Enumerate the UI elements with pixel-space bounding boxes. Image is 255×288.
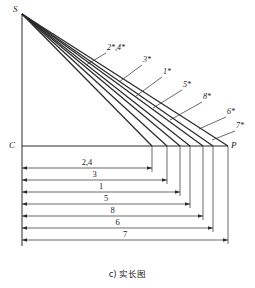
ray-label-5: 6* bbox=[227, 107, 235, 116]
dimension-arrow-left-6 bbox=[22, 238, 27, 242]
radial-ray-2 bbox=[22, 14, 167, 146]
ray-leader-6 bbox=[212, 131, 235, 140]
dimension-arrow-right-4 bbox=[198, 214, 203, 218]
dimension-label-5: 6 bbox=[115, 217, 119, 227]
dimension-label-3: 5 bbox=[104, 193, 108, 203]
radial-ray-7 bbox=[22, 14, 228, 146]
true-length-diagram: S C P 2*,4*3*1*5*8*6*7* 2,4315867 c) 实长图 bbox=[0, 0, 255, 288]
ray-label-4: 8* bbox=[203, 92, 211, 101]
dimension-arrow-right-3 bbox=[185, 202, 190, 206]
dimension-arrow-left-1 bbox=[22, 178, 27, 182]
dimension-arrow-right-5 bbox=[208, 226, 213, 230]
radial-ray-1 bbox=[22, 14, 152, 146]
radial-ray-5 bbox=[22, 14, 203, 146]
dimension-arrow-right-0 bbox=[147, 166, 152, 170]
ray-leader-3 bbox=[153, 90, 182, 108]
point-label-P: P bbox=[230, 140, 237, 150]
radial-ray-group bbox=[22, 14, 228, 146]
dimension-arrow-right-6 bbox=[223, 238, 228, 242]
dimension-label-0: 2,4 bbox=[82, 157, 93, 167]
dimension-arrow-right-2 bbox=[175, 190, 180, 194]
dimension-label-2: 1 bbox=[99, 181, 103, 191]
dimension-line-group: 2,4315867 bbox=[22, 157, 228, 242]
dimension-arrow-left-4 bbox=[22, 214, 27, 218]
ray-label-6: 7* bbox=[236, 121, 244, 130]
dimension-arrow-left-2 bbox=[22, 190, 27, 194]
figure-caption: c) 实长图 bbox=[109, 269, 147, 279]
ray-leader-5 bbox=[199, 117, 226, 129]
radial-ray-3 bbox=[22, 14, 180, 146]
ray-label-1: 3* bbox=[142, 55, 151, 64]
ray-leader-0 bbox=[86, 53, 106, 65]
ray-label-group: 2*,4*3*1*5*8*6*7* bbox=[86, 43, 244, 140]
dimension-arrow-left-3 bbox=[22, 202, 27, 206]
ray-leader-2 bbox=[136, 77, 162, 96]
dimension-label-6: 7 bbox=[123, 229, 127, 239]
radial-ray-4 bbox=[22, 14, 190, 146]
point-label-C: C bbox=[9, 140, 16, 150]
ray-leader-4 bbox=[170, 102, 202, 120]
ray-leader-1 bbox=[119, 65, 142, 82]
ray-label-3: 5* bbox=[183, 80, 191, 89]
point-label-S: S bbox=[13, 4, 18, 14]
dimension-arrow-left-0 bbox=[22, 166, 27, 170]
vertical-drop-line-group bbox=[152, 146, 228, 244]
diagram-canvas: S C P 2*,4*3*1*5*8*6*7* 2,4315867 c) 实长图 bbox=[0, 0, 255, 288]
ray-label-0: 2*,4* bbox=[107, 43, 125, 52]
ray-label-2: 1* bbox=[163, 67, 171, 76]
dimension-arrow-left-5 bbox=[22, 226, 27, 230]
dimension-arrow-right-1 bbox=[162, 178, 167, 182]
dimension-label-4: 8 bbox=[110, 205, 114, 215]
dimension-label-1: 3 bbox=[92, 169, 96, 179]
